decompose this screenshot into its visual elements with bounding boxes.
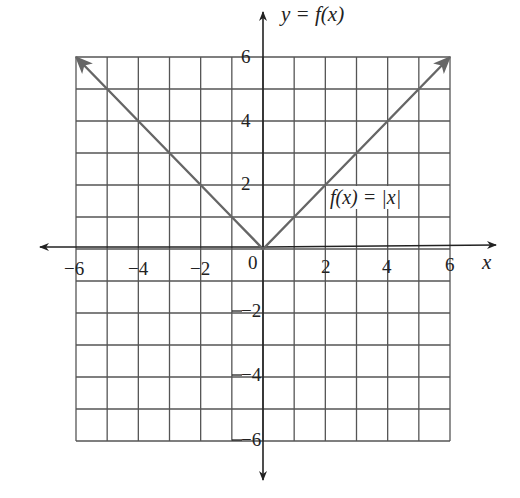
y-tick-neg6: −6 (241, 429, 261, 451)
x-axis-label: x (482, 250, 491, 275)
absolute-value-graph (0, 0, 520, 498)
y-tick-pos4: 4 (241, 110, 251, 132)
y-tick-pos2: 2 (241, 173, 251, 195)
x-tick-pos4: 4 (382, 256, 392, 278)
x-tick-neg2: −2 (190, 258, 210, 280)
x-tick-neg4: −4 (128, 258, 148, 280)
equation-text: f(x) = |x| (330, 186, 401, 208)
equation-annotation: f(x) = |x| (328, 186, 403, 209)
x-label-text: x (482, 250, 491, 274)
x-tick-zero: 0 (248, 252, 258, 274)
y-tick-pos6: 6 (241, 46, 251, 68)
y-tick-neg4: −4 (241, 364, 261, 386)
chart-title: y = f(x) (281, 2, 344, 27)
x-tick-pos6: 6 (445, 254, 455, 276)
x-tick-neg6: −6 (64, 258, 84, 280)
y-tick-neg2: −2 (241, 300, 261, 322)
x-tick-pos2: 2 (321, 256, 331, 278)
x-axis (263, 245, 496, 247)
title-text: y = f(x) (281, 2, 344, 26)
